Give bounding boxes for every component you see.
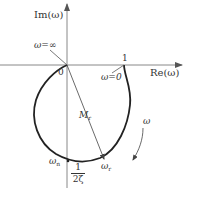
origin-label: 0 bbox=[58, 68, 64, 77]
omega-infinity-label: ω=∞ bbox=[34, 41, 56, 50]
one-label: 1 bbox=[122, 54, 128, 63]
re-axis-label: Re(ω) bbox=[150, 68, 179, 78]
fraction-denominator: 2ζ bbox=[71, 175, 85, 184]
im-axis-label: Im(ω) bbox=[34, 10, 63, 20]
mr-label: Mr bbox=[79, 111, 91, 121]
omega-infinity-leader bbox=[50, 50, 67, 65]
omega-zero-label: ω=0 bbox=[101, 73, 122, 82]
omega-direction-label: ω bbox=[143, 117, 150, 126]
omega-direction-arrow bbox=[133, 128, 143, 160]
fraction-numerator: 1 bbox=[71, 163, 85, 172]
omega-n-point bbox=[67, 160, 70, 163]
omega-r-label: ωr bbox=[101, 162, 111, 172]
nyquist-diagram bbox=[0, 0, 200, 198]
one-over-two-zeta-label: 1 2ζ bbox=[71, 163, 85, 184]
omega-n-label: ωn bbox=[49, 157, 60, 167]
